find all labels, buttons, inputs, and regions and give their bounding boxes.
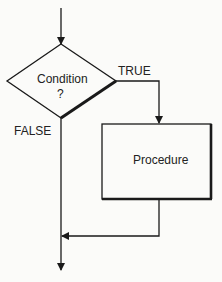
decision-label: Condition [37,72,88,86]
flowchart-if-then: Condition ? TRUE FALSE Procedure [0,0,222,282]
return-line [62,199,159,236]
flowchart-lines [0,0,222,282]
true-label: TRUE [118,64,151,78]
procedure-label: Procedure [133,153,188,167]
true-branch-line [116,81,159,123]
decision-question-mark: ? [57,87,64,101]
false-label: FALSE [14,124,51,138]
